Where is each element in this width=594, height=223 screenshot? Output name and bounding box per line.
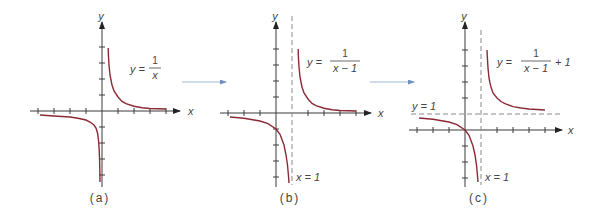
svg-text:x − 1: x − 1 bbox=[332, 62, 357, 74]
svg-text:y =: y = bbox=[129, 63, 146, 75]
panel-a: y x y = 1 x (a) bbox=[30, 10, 194, 205]
svg-text:+ 1: + 1 bbox=[555, 56, 571, 68]
curve-left-branch bbox=[40, 115, 100, 182]
curve-right-branch bbox=[487, 50, 545, 110]
y-axis-label: y bbox=[271, 10, 279, 22]
x-axis-label: x bbox=[567, 124, 574, 136]
x-axis-label: x bbox=[187, 105, 194, 117]
svg-text:y =: y = bbox=[306, 56, 323, 68]
panel-c: y x y = 1 x − 1 + 1 y = 1 x = 1 (c) bbox=[409, 10, 574, 205]
caption-a: (a) bbox=[90, 191, 111, 205]
curve-left-branch bbox=[230, 117, 289, 183]
equation-c: y = 1 x − 1 + 1 bbox=[496, 48, 571, 74]
caption-b: (b) bbox=[280, 191, 301, 205]
horizontal-asymptote-label: y = 1 bbox=[411, 100, 436, 112]
svg-text:x: x bbox=[151, 69, 158, 81]
panel-b: y x y = 1 x − 1 x = 1 (b) bbox=[220, 10, 384, 205]
transformation-figure: y x y = 1 x (a) bbox=[0, 0, 594, 223]
svg-text:1: 1 bbox=[152, 55, 158, 66]
equation-a: y = 1 x bbox=[129, 55, 161, 81]
y-axis-label: y bbox=[460, 10, 468, 22]
vertical-asymptote-label: x = 1 bbox=[484, 171, 509, 183]
svg-text:1: 1 bbox=[342, 48, 348, 59]
caption-c: (c) bbox=[469, 191, 489, 205]
svg-text:x − 1: x − 1 bbox=[523, 62, 548, 74]
equation-b: y = 1 x − 1 bbox=[306, 48, 360, 74]
svg-text:1: 1 bbox=[533, 48, 539, 59]
x-axis-label: x bbox=[377, 107, 384, 119]
y-axis-label: y bbox=[97, 10, 105, 22]
svg-text:y =: y = bbox=[496, 56, 513, 68]
vertical-asymptote-label: x = 1 bbox=[295, 171, 320, 183]
